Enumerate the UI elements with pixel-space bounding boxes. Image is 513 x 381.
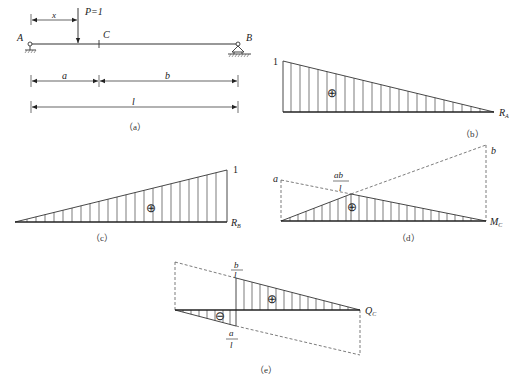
- label-d-peak-num: ab: [334, 170, 344, 180]
- label-mc: MC: [489, 216, 503, 228]
- panel-d-mc-influence-line: a b ab l ⊕ MC （d）: [273, 145, 503, 243]
- hatching-b: [291, 63, 480, 112]
- hatching-d: [290, 196, 471, 221]
- label-e-bottom-num: a: [229, 328, 234, 338]
- label-ra: RA: [498, 107, 509, 119]
- caption-d: （d）: [397, 233, 420, 243]
- caption-e: （e）: [255, 365, 277, 375]
- label-c-max: 1: [233, 164, 238, 175]
- label-d-b: b: [491, 145, 496, 156]
- label-dim-x: x: [51, 10, 56, 20]
- influence-line-figure: A B C P=1 x a b l （a） 1 ⊕ RA （b）: [0, 0, 513, 381]
- label-dim-l: l: [132, 96, 135, 107]
- label-b-max: 1: [273, 56, 278, 67]
- label-dim-a: a: [62, 70, 67, 81]
- caption-b: （b）: [461, 129, 484, 139]
- label-d-a: a: [273, 173, 278, 184]
- label-qc: QC: [365, 305, 377, 317]
- caption-c: （c）: [91, 233, 113, 243]
- sign-positive-d-icon: ⊕: [347, 200, 357, 214]
- label-c-section: C: [103, 29, 110, 40]
- label-e-bottom-den: l: [230, 340, 233, 350]
- panel-e-qc-influence-line: b l a l ⊕ ⊖ QC （e）: [175, 260, 377, 375]
- caption-a: （a）: [124, 122, 146, 132]
- hatching-c: [27, 173, 216, 222]
- label-b-support: B: [246, 32, 252, 43]
- label-a-support: A: [16, 32, 24, 43]
- label-d-peak-den: l: [339, 183, 342, 193]
- label-load: P=1: [84, 6, 103, 17]
- panel-c-rb-influence-line: 1 ⊕ RB （c）: [15, 164, 241, 243]
- label-rb: RB: [230, 217, 241, 229]
- panel-a-beam: A B C P=1 x a b l （a）: [16, 6, 252, 132]
- sign-positive-c-icon: ⊕: [146, 201, 156, 215]
- sign-positive-e-icon: ⊕: [267, 292, 277, 306]
- sign-negative-e-icon: ⊖: [215, 309, 225, 323]
- label-e-top-num: b: [234, 260, 239, 270]
- sign-positive-b-icon: ⊕: [327, 86, 337, 100]
- panel-b-ra-influence-line: 1 ⊕ RA （b）: [273, 56, 509, 139]
- hatching-e-positive: [244, 280, 348, 310]
- label-dim-b: b: [165, 70, 170, 81]
